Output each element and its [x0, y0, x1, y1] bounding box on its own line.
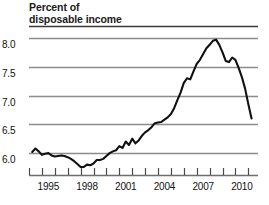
plot-area — [0, 0, 269, 205]
y-tick-label-8.0: 8.0 — [2, 40, 15, 50]
y-tick-label-6.5: 6.5 — [2, 126, 15, 136]
x-tick-label-2001: 2001 — [115, 182, 136, 192]
x-tick-label-1995: 1995 — [38, 182, 59, 192]
chart-figure: Percent of disposable income 8.07.57.06.… — [0, 0, 269, 205]
y-tick-label-7.5: 7.5 — [2, 69, 15, 79]
x-tick-label-2007: 2007 — [192, 182, 213, 192]
x-tick-label-2010: 2010 — [231, 182, 252, 192]
x-tick-label-1998: 1998 — [76, 182, 97, 192]
y-tick-label-6.0: 6.0 — [2, 155, 15, 165]
y-tick-label-7.0: 7.0 — [2, 98, 15, 108]
x-axis-ticks — [30, 168, 249, 175]
x-tick-label-2004: 2004 — [154, 182, 175, 192]
data-series-line — [32, 40, 251, 167]
